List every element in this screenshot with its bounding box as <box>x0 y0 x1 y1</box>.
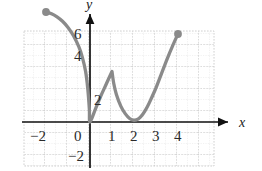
endpoint-dot-right <box>174 30 182 38</box>
x-axis-label: x <box>238 115 246 130</box>
ytick-label-4: 4 <box>74 48 82 64</box>
xtick-label-4: 4 <box>174 128 182 144</box>
ytick-label-2: 2 <box>94 92 102 108</box>
xtick-label-3: 3 <box>152 128 160 144</box>
y-axis-label: y <box>84 0 93 12</box>
xtick-label-1: 1 <box>108 128 116 144</box>
coordinate-plane-chart: −2 0 1 2 3 4 −2 2 4 6 x y <box>0 0 262 171</box>
xtick-label-2: 2 <box>130 128 138 144</box>
xtick-label-0: 0 <box>74 128 82 144</box>
y-axis-arrow <box>86 14 95 24</box>
x-axis-arrow <box>218 118 228 127</box>
ytick-label-neg2: −2 <box>68 148 84 164</box>
graph-figure: −2 0 1 2 3 4 −2 2 4 6 x y <box>0 0 262 171</box>
ytick-label-6: 6 <box>74 26 82 42</box>
xtick-label-neg2: −2 <box>30 128 46 144</box>
endpoint-dot-left <box>42 8 50 16</box>
